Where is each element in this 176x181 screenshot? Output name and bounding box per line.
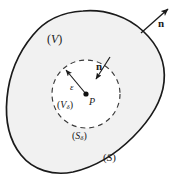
diagram-svg [0,0,176,181]
figure-canvas: (V) (Vδ) (Sδ) (S) P ε n n [0,0,176,181]
outward-normal-arrow [141,9,168,33]
center-point-dot [83,91,88,96]
